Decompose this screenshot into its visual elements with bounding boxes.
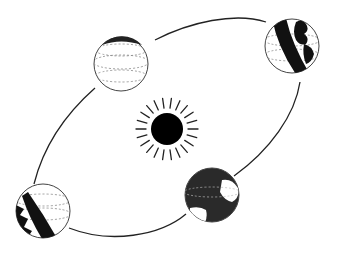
sun-ray [163, 98, 164, 108]
sun-icon [136, 98, 198, 159]
sun-ray [181, 145, 188, 153]
sun-ray [154, 101, 158, 110]
earth-top-left-icon [93, 36, 149, 91]
sun-ray [147, 106, 154, 114]
sun-ray [176, 101, 180, 110]
earth-bottom-left-icon [14, 184, 71, 242]
sun-ray [170, 150, 171, 160]
sun-ray [141, 140, 149, 145]
orbit-diagram-canvas [0, 0, 340, 258]
sun-ray [181, 106, 188, 114]
sun-ray [187, 120, 197, 123]
sun-ray [163, 150, 164, 160]
earth-bottom-right-icon [184, 168, 240, 224]
sun-ray [187, 135, 197, 138]
sun-ray [137, 120, 147, 123]
sun-ray [137, 135, 147, 138]
orbit-diagram: Earth orbiting the Sun [0, 0, 340, 258]
sun-ray [141, 112, 149, 117]
sun-ray [185, 140, 193, 145]
sun-ray [154, 148, 158, 157]
sun-ray [176, 148, 180, 157]
earth-top-right-icon [264, 18, 320, 80]
sun-ray [147, 145, 154, 153]
sun-ray [185, 112, 193, 117]
sun-ray [170, 98, 171, 108]
